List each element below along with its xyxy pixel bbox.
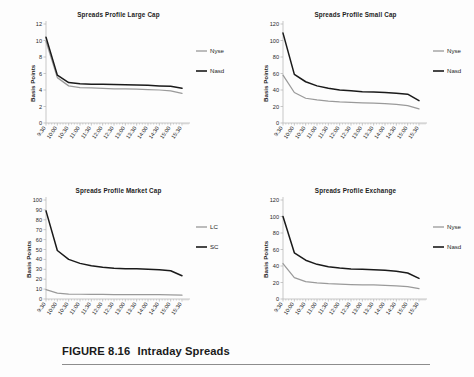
- svg-text:100: 100: [270, 214, 279, 220]
- svg-text:Nasd: Nasd: [447, 243, 461, 250]
- svg-text:20: 20: [36, 276, 42, 282]
- svg-text:10: 10: [36, 286, 42, 292]
- svg-text:13:30: 13:30: [362, 125, 375, 140]
- svg-text:13:30: 13:30: [125, 301, 138, 316]
- svg-text:Nyse: Nyse: [210, 47, 224, 54]
- svg-text:12:30: 12:30: [339, 125, 352, 140]
- svg-text:SC: SC: [210, 243, 219, 250]
- svg-text:70: 70: [36, 227, 42, 233]
- svg-text:15:00: 15:00: [396, 125, 409, 140]
- svg-text:20: 20: [273, 104, 279, 110]
- svg-text:14:00: 14:00: [136, 125, 149, 140]
- svg-text:13:30: 13:30: [125, 125, 138, 140]
- svg-text:Nasd: Nasd: [447, 67, 461, 74]
- svg-text:15:30: 15:30: [407, 301, 420, 316]
- svg-text:4: 4: [39, 87, 42, 93]
- caption-figure-title: Intraday Spreads: [137, 345, 229, 357]
- svg-text:11:00: 11:00: [305, 125, 318, 139]
- svg-text:50: 50: [36, 247, 42, 253]
- svg-text:10:00: 10:00: [282, 125, 295, 140]
- chart-panel-large-cap: Spreads Profile Large Cap Basis Points 0…: [0, 2, 237, 174]
- svg-text:Nyse: Nyse: [447, 223, 461, 230]
- plot-area-market-cap: 01020304050607080901009:3010:0010:3011:0…: [0, 178, 237, 350]
- svg-text:11:30: 11:30: [317, 125, 330, 139]
- svg-text:6: 6: [39, 71, 42, 77]
- svg-text:11:30: 11:30: [80, 301, 93, 315]
- plot-area-small-cap: 0204060801001209:3010:0010:3011:0011:301…: [237, 2, 474, 174]
- svg-text:13:30: 13:30: [362, 301, 375, 316]
- svg-text:12:30: 12:30: [102, 125, 115, 140]
- svg-text:13:00: 13:00: [113, 125, 126, 140]
- svg-text:10:30: 10:30: [57, 301, 70, 316]
- svg-text:120: 120: [270, 197, 279, 203]
- svg-text:12:00: 12:00: [91, 301, 104, 316]
- svg-text:40: 40: [273, 263, 279, 269]
- svg-text:10:00: 10:00: [45, 125, 58, 140]
- svg-text:10:00: 10:00: [282, 301, 295, 316]
- svg-text:14:00: 14:00: [373, 301, 386, 316]
- svg-text:14:00: 14:00: [373, 125, 386, 140]
- svg-text:12:30: 12:30: [339, 301, 352, 316]
- svg-text:15:30: 15:30: [170, 301, 183, 316]
- caption-figure-number: FIGURE 8.16: [62, 345, 130, 357]
- figure-caption: FIGURE 8.16 Intraday Spreads: [0, 345, 474, 377]
- svg-text:13:00: 13:00: [113, 301, 126, 316]
- svg-text:15:30: 15:30: [170, 125, 183, 140]
- chart-panel-market-cap: Spreads Profile Market Cap Basis Points …: [0, 178, 237, 350]
- svg-text:60: 60: [273, 247, 279, 253]
- svg-text:11:30: 11:30: [317, 301, 330, 315]
- svg-text:12:30: 12:30: [102, 301, 115, 316]
- svg-text:90: 90: [36, 207, 42, 213]
- svg-text:60: 60: [36, 237, 42, 243]
- svg-text:10:00: 10:00: [45, 301, 58, 316]
- svg-text:11:30: 11:30: [80, 125, 93, 139]
- svg-text:15:00: 15:00: [159, 301, 172, 316]
- svg-text:8: 8: [39, 54, 42, 60]
- svg-text:13:00: 13:00: [350, 125, 363, 140]
- svg-text:13:00: 13:00: [350, 301, 363, 316]
- plot-area-exchange: 0204060801001209:3010:0010:3011:0011:301…: [237, 178, 474, 350]
- svg-text:10:30: 10:30: [294, 125, 307, 140]
- svg-text:15:30: 15:30: [407, 125, 420, 140]
- figure-page: Spreads Profile Large Cap Basis Points 0…: [0, 0, 474, 377]
- svg-text:100: 100: [33, 197, 42, 203]
- svg-text:LC: LC: [210, 223, 218, 230]
- svg-text:10: 10: [36, 38, 42, 44]
- svg-text:10:30: 10:30: [294, 301, 307, 316]
- svg-text:10:30: 10:30: [57, 125, 70, 140]
- svg-text:80: 80: [273, 230, 279, 236]
- svg-text:Nyse: Nyse: [447, 47, 461, 54]
- caption-line: FIGURE 8.16 Intraday Spreads: [62, 345, 230, 357]
- chart-panel-exchange: Spreads Profile Exchange Basis Points 02…: [237, 178, 474, 350]
- caption-divider: [62, 364, 430, 365]
- svg-text:40: 40: [36, 256, 42, 262]
- svg-text:14:30: 14:30: [384, 125, 397, 140]
- svg-text:14:30: 14:30: [147, 301, 160, 316]
- svg-text:120: 120: [270, 21, 279, 27]
- svg-text:12: 12: [36, 21, 42, 27]
- plot-area-large-cap: 0246810129:3010:0010:3011:0011:3012:0012…: [0, 2, 237, 174]
- svg-text:12:00: 12:00: [91, 125, 104, 140]
- svg-text:100: 100: [270, 38, 279, 44]
- svg-text:11:00: 11:00: [68, 125, 81, 139]
- svg-text:80: 80: [36, 217, 42, 223]
- svg-text:14:00: 14:00: [136, 301, 149, 316]
- svg-text:14:30: 14:30: [384, 301, 397, 316]
- svg-text:30: 30: [36, 266, 42, 272]
- svg-text:12:00: 12:00: [328, 301, 341, 316]
- svg-text:15:00: 15:00: [396, 301, 409, 316]
- svg-text:60: 60: [273, 71, 279, 77]
- svg-text:2: 2: [39, 104, 42, 110]
- svg-text:40: 40: [273, 87, 279, 93]
- svg-text:12:00: 12:00: [328, 125, 341, 140]
- svg-text:11:00: 11:00: [68, 301, 81, 315]
- svg-text:11:00: 11:00: [305, 301, 318, 315]
- svg-text:15:00: 15:00: [159, 125, 172, 140]
- svg-text:14:30: 14:30: [147, 125, 160, 140]
- svg-text:Nasd: Nasd: [210, 67, 224, 74]
- svg-text:80: 80: [273, 54, 279, 60]
- svg-text:20: 20: [273, 280, 279, 286]
- chart-panel-small-cap: Spreads Profile Small Cap Basis Points 0…: [237, 2, 474, 174]
